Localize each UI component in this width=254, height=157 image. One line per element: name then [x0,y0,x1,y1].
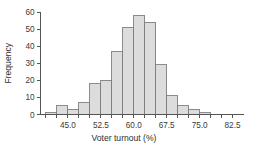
y-axis-title: Frequency [3,42,13,83]
histogram-bar [189,109,200,114]
histogram-bar [68,109,79,114]
y-tick-label: 20 [25,76,35,85]
histogram-bar [178,106,189,115]
y-ticks-group: 0102030405060 [25,8,40,120]
histogram-bar [167,96,178,115]
x-ticks-group: 45.052.560.067.575.082.5 [46,115,241,130]
histogram-svg: 0102030405060 45.052.560.067.575.082.5 V… [0,0,254,157]
histogram-bar [156,65,167,115]
histogram-bar [123,27,134,114]
histogram-bar [101,80,112,114]
x-axis-title: Voter turnout (%) [92,133,157,143]
histogram-bar [79,103,90,115]
x-tick-label: 60.0 [126,121,142,130]
bars-group [46,15,211,114]
x-tick-label: 82.5 [225,121,241,130]
x-tick-label: 52.5 [93,121,109,130]
x-tick-label: 45.0 [60,121,76,130]
y-tick-label: 60 [25,8,35,17]
histogram-bar [112,51,123,114]
y-tick-label: 40 [25,42,35,51]
x-tick-label: 67.5 [159,121,175,130]
histogram-bar [90,84,101,115]
histogram-chart: 0102030405060 45.052.560.067.575.082.5 V… [0,0,254,157]
x-tick-label: 75.0 [192,121,208,130]
histogram-bar [145,22,156,114]
y-tick-label: 0 [30,111,35,120]
y-tick-label: 30 [25,59,35,68]
histogram-bar [57,106,68,115]
histogram-bar [134,15,145,114]
y-tick-label: 10 [25,93,35,102]
y-tick-label: 50 [25,25,35,34]
